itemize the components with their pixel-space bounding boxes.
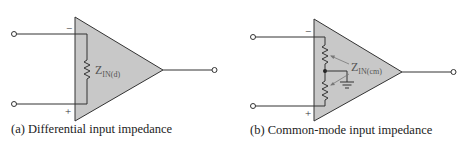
caption-a: (a) Differential input impedance [11,122,173,136]
noninverting-sign-b: + [305,107,311,119]
input-terminal-noninverting-b [251,104,256,109]
caption-b: (b) Common-mode input impedance [250,123,433,137]
input-terminal-inverting-b [251,35,256,40]
input-terminal-inverting-a [12,32,17,37]
output-terminal-a [212,68,217,73]
inverting-sign-b: − [305,25,311,37]
diagram-b-common-mode: − + ZIN(cm) (b) Common-mode input impeda… [250,19,456,137]
inverting-sign-a: − [66,22,72,34]
noninverting-sign-a: + [65,105,71,117]
diagram-a-differential: − + ZIN(d) (a) Differential input impeda… [11,17,217,136]
opamp-impedance-figure: − + ZIN(d) (a) Differential input impeda… [0,0,470,145]
output-terminal-b [451,70,456,75]
input-terminal-noninverting-a [12,102,17,107]
opamp-triangle-a [75,17,163,121]
